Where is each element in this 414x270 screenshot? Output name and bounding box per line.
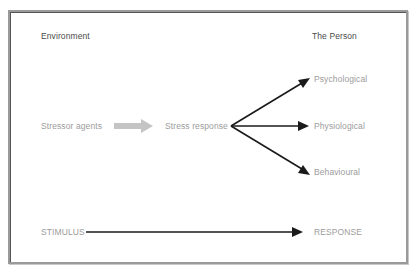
arrowhead-behavioural-icon (298, 165, 310, 175)
arrowhead-response-icon (292, 227, 303, 237)
block-arrow-icon (114, 119, 153, 133)
diagram-arrows (0, 0, 414, 270)
fan-arrows (86, 83, 302, 232)
arrowhead-physiological-icon (298, 121, 309, 131)
arrowhead-psychological-icon (298, 78, 310, 88)
